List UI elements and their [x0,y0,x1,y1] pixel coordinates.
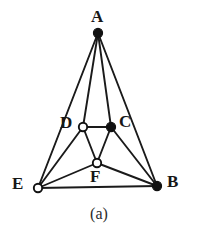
vertex-label-B: B [167,173,178,190]
graph-edge-AC [98,33,111,127]
graph-edge-AB [98,33,157,186]
figure-container: ADCEFB (a) [0,0,198,238]
graph-vertex-F [93,159,101,167]
graph-vertex-E [34,184,42,192]
vertex-label-D: D [60,114,72,131]
graph-edge-DF [83,127,97,163]
graph-edge-CF [97,127,111,163]
graph-edge-AD [83,33,98,127]
graph-canvas [0,0,198,238]
vertex-label-F: F [90,168,100,185]
graph-vertex-C [106,122,115,131]
graph-vertex-A [93,28,102,37]
graph-edge-EB [38,186,157,188]
vertex-label-E: E [12,175,23,192]
graph-edge-AE [38,33,98,188]
vertex-label-C: C [119,113,131,130]
graph-vertex-D [79,123,87,131]
figure-caption: (a) [0,205,198,223]
vertex-label-A: A [91,8,103,25]
graph-vertex-B [152,181,161,190]
